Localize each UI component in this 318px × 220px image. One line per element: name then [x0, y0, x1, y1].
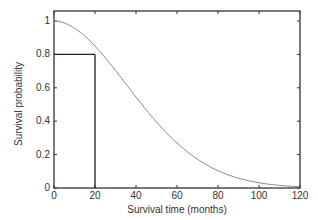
y-tick-label: 0.4	[36, 115, 50, 126]
y-axis-label: Survival probability	[13, 62, 24, 146]
y-tick-label: 0.6	[36, 82, 50, 93]
x-tick-label: 20	[89, 190, 101, 201]
x-tick-label: 120	[292, 190, 309, 201]
axes-frame	[54, 11, 300, 188]
x-tick-label: 60	[171, 190, 183, 201]
x-tick-label: 80	[212, 190, 224, 201]
x-axis-label: Survival time (months)	[127, 204, 226, 215]
y-tick-label: 0.8	[36, 48, 50, 59]
plot-area: 02040608010012000.20.40.60.81	[36, 11, 309, 201]
x-tick-label: 100	[251, 190, 268, 201]
x-tick-label: 40	[130, 190, 142, 201]
x-tick-label: 0	[51, 190, 57, 201]
y-tick-label: 0.2	[36, 149, 50, 160]
y-tick-label: 0	[44, 182, 50, 193]
y-tick-label: 1	[44, 15, 50, 26]
survival-curve	[54, 21, 300, 187]
survival-chart: 02040608010012000.20.40.60.81 Survival t…	[0, 0, 318, 220]
